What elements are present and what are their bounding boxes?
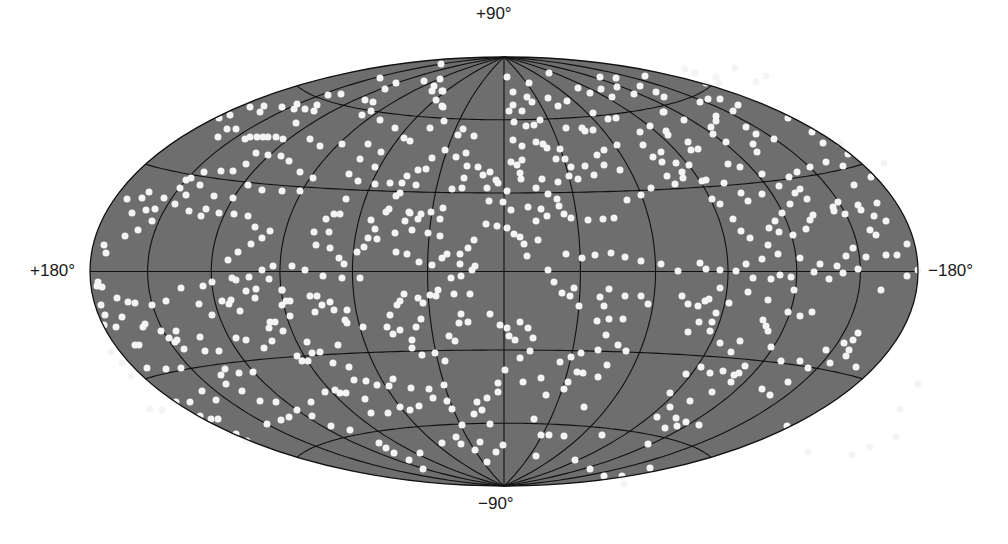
data-point xyxy=(239,388,246,395)
data-point xyxy=(279,302,286,309)
data-point xyxy=(330,360,337,367)
data-point xyxy=(159,407,166,414)
data-point xyxy=(225,257,232,264)
data-point xyxy=(163,298,170,305)
data-point xyxy=(129,210,136,217)
data-point xyxy=(544,213,551,220)
data-point xyxy=(368,410,375,417)
data-point xyxy=(297,169,304,176)
data-point xyxy=(538,206,545,213)
data-point xyxy=(587,466,594,473)
data-point xyxy=(732,65,739,72)
data-point xyxy=(574,369,581,376)
data-point xyxy=(525,325,532,332)
data-point xyxy=(805,449,812,456)
data-point xyxy=(230,195,237,202)
data-point xyxy=(642,73,649,80)
data-point xyxy=(703,266,710,273)
data-point xyxy=(152,206,159,213)
data-point xyxy=(474,399,481,406)
data-point xyxy=(302,106,309,113)
data-point xyxy=(423,166,430,173)
data-point xyxy=(370,99,377,106)
data-point xyxy=(817,261,824,268)
data-point xyxy=(590,110,597,117)
data-point xyxy=(377,117,384,124)
data-point xyxy=(397,327,404,334)
data-point xyxy=(698,364,705,371)
data-point xyxy=(538,375,545,382)
data-point xyxy=(673,160,680,167)
data-point xyxy=(294,407,301,414)
data-point xyxy=(362,396,369,403)
data-point xyxy=(638,192,645,199)
data-point xyxy=(471,237,478,244)
data-point xyxy=(218,372,225,379)
data-point xyxy=(187,399,194,406)
data-point xyxy=(766,225,773,232)
data-point xyxy=(267,228,274,235)
data-point xyxy=(672,181,679,188)
data-point xyxy=(440,88,447,95)
data-point xyxy=(361,244,368,251)
data-point xyxy=(451,291,458,298)
data-point xyxy=(309,413,316,420)
data-point xyxy=(720,368,727,375)
data-point xyxy=(645,441,652,448)
data-point xyxy=(270,263,277,270)
data-point xyxy=(372,226,379,233)
data-point xyxy=(365,141,372,148)
data-point xyxy=(235,249,242,256)
data-point xyxy=(103,250,110,257)
data-point xyxy=(347,427,354,434)
data-point xyxy=(797,255,804,262)
data-point xyxy=(538,432,545,439)
data-point xyxy=(218,168,225,175)
data-point xyxy=(904,241,911,248)
data-point xyxy=(394,302,401,309)
data-point xyxy=(383,445,390,452)
data-point xyxy=(259,187,266,194)
data-point xyxy=(557,359,564,366)
data-point xyxy=(504,188,511,195)
data-point xyxy=(873,232,880,239)
data-point xyxy=(883,218,890,225)
data-point xyxy=(363,378,370,385)
data-point xyxy=(526,80,533,87)
data-point xyxy=(278,153,285,160)
data-point xyxy=(429,262,436,269)
data-point xyxy=(654,414,661,421)
data-point xyxy=(359,112,366,119)
data-point xyxy=(709,196,716,203)
data-point xyxy=(297,188,304,195)
data-point xyxy=(487,311,494,318)
data-point xyxy=(390,376,397,383)
data-point xyxy=(595,374,602,381)
data-point xyxy=(181,346,188,353)
data-point xyxy=(504,325,511,332)
data-point xyxy=(863,254,870,261)
data-point xyxy=(658,149,665,156)
data-point xyxy=(531,416,538,423)
data-point xyxy=(794,169,801,176)
data-point xyxy=(842,211,849,218)
data-point xyxy=(621,481,628,488)
data-point xyxy=(582,128,589,135)
data-point xyxy=(343,196,350,203)
data-point xyxy=(598,86,605,93)
data-point xyxy=(697,260,704,267)
data-point xyxy=(650,154,657,161)
data-point xyxy=(843,253,850,260)
data-point xyxy=(312,309,319,316)
data-point xyxy=(495,389,502,396)
data-point xyxy=(604,362,611,369)
data-point xyxy=(433,293,440,300)
data-point xyxy=(245,182,252,189)
data-point xyxy=(209,312,216,319)
data-point xyxy=(517,319,524,326)
data-point xyxy=(728,379,735,386)
data-point xyxy=(161,195,168,202)
data-point xyxy=(407,138,414,145)
data-point xyxy=(685,139,692,146)
data-point xyxy=(390,331,397,338)
